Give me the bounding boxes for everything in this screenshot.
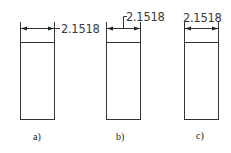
panel-label-c: c) [196, 130, 204, 142]
dimension-text-a: 2.1518 [61, 22, 99, 36]
panel-c: 2.1518 c) [183, 11, 221, 142]
panel-a: 2.1518 a) [21, 22, 100, 143]
panel-label-b: b) [116, 131, 124, 143]
rectangle-c [185, 43, 219, 120]
dimension-placement-diagram: 2.1518 a) 2.1518 b) 2.1518 c) [0, 0, 231, 153]
arrowhead-left-icon [185, 27, 191, 31]
arrowhead-right-icon [48, 27, 54, 31]
dimension-text-b: 2.1518 [126, 10, 164, 24]
panel-label-a: a) [33, 131, 41, 143]
dimension-text-c: 2.1518 [183, 11, 221, 25]
panel-b: 2.1518 b) [107, 10, 165, 143]
rectangle-b [107, 43, 141, 120]
rectangle-a [21, 43, 55, 120]
arrowhead-left-icon [21, 27, 27, 31]
arrowhead-right-icon [212, 27, 218, 31]
arrowhead-right-icon [134, 27, 140, 31]
arrowhead-left-icon [107, 27, 113, 31]
